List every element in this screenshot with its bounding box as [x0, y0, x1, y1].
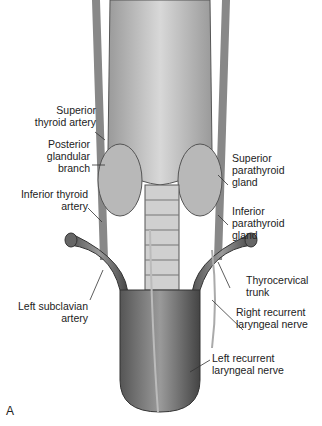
label-posterior-glandular-branch: Posterior glandular branch — [10, 138, 90, 174]
label-line: laryngeal nerve — [236, 318, 308, 330]
label-line: Inferior thyroid — [4, 188, 88, 200]
left-thyroid-lobe — [98, 144, 142, 216]
label-line: parathyroid — [232, 217, 285, 229]
label-right-recurrent-laryngeal-nerve: Right recurrent laryngeal nerve — [236, 306, 308, 330]
label-line: gland — [232, 229, 285, 241]
label-line: Superior — [232, 152, 285, 164]
label-line: thyroid artery — [10, 116, 96, 128]
label-line: Superior — [10, 104, 96, 116]
label-line: parathyroid — [232, 164, 285, 176]
label-inferior-parathyroid-gland: Inferior parathyroid gland — [232, 205, 285, 241]
label-line: laryngeal nerve — [212, 364, 284, 376]
label-line: Left subclavian — [4, 300, 88, 312]
label-left-subclavian-artery: Left subclavian artery — [4, 300, 88, 324]
label-line: branch — [10, 162, 90, 174]
right-thyroid-lobe — [178, 144, 222, 216]
label-line: artery — [4, 312, 88, 324]
panel-label: A — [6, 404, 14, 418]
label-line: Left recurrent — [212, 352, 284, 364]
label-line: Inferior — [232, 205, 285, 217]
label-left-recurrent-laryngeal-nerve: Left recurrent laryngeal nerve — [212, 352, 284, 376]
label-superior-parathyroid-gland: Superior parathyroid gland — [232, 152, 285, 188]
label-superior-thyroid-artery: Superior thyroid artery — [10, 104, 96, 128]
label-inferior-thyroid-artery: Inferior thyroid artery — [4, 188, 88, 212]
label-thyrocervical-trunk: Thyrocervical trunk — [246, 274, 308, 298]
label-line: Thyrocervical — [246, 274, 308, 286]
aortic-arch — [120, 290, 200, 412]
label-line: Right recurrent — [236, 306, 308, 318]
label-line: glandular — [10, 150, 90, 162]
label-line: gland — [232, 176, 285, 188]
label-line: Posterior — [10, 138, 90, 150]
label-line: trunk — [246, 286, 308, 298]
label-line: artery — [4, 200, 88, 212]
